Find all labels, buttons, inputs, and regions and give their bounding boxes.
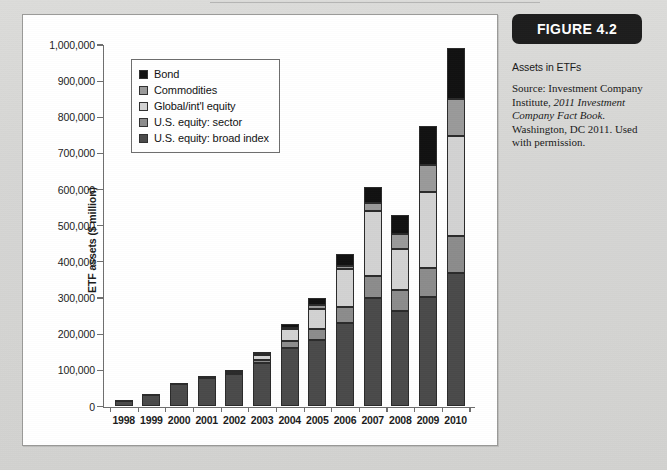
legend-swatch-icon [139, 102, 148, 111]
bar-segment [308, 309, 326, 329]
bar-segment [336, 266, 354, 269]
bar-segment [447, 48, 465, 99]
y-axis-tick-label: 1,000,000 [23, 39, 95, 51]
y-axis-tick-label: 200,000 [23, 328, 95, 340]
bar-2006 [336, 45, 354, 407]
legend-item: Commodities [139, 82, 269, 98]
y-axis-tick [97, 81, 103, 82]
y-axis-tick-label: 700,000 [23, 147, 95, 159]
legend-item-label: U.S. equity: sector [154, 116, 242, 128]
bar-segment [253, 363, 271, 406]
bar-2004 [281, 45, 299, 407]
bar-segment [447, 99, 465, 137]
page-background: ETF assets ($ million) 0100,000200,00030… [0, 0, 667, 470]
x-axis-tick [359, 407, 360, 412]
y-axis-title: ETF assets ($ million) [86, 187, 98, 293]
figure-caption-title: Assets in ETFs [512, 61, 650, 73]
bar-segment [391, 311, 409, 406]
y-axis-tick-label: 400,000 [23, 256, 95, 268]
legend-item: Global/int'l equity [139, 98, 269, 114]
figure-source-note: Source: Investment Company Institute, 20… [512, 82, 650, 150]
x-axis-label-2004: 2004 [278, 414, 301, 426]
bar-segment [336, 269, 354, 307]
bar-segment [281, 328, 299, 330]
bar-segment [391, 290, 409, 311]
y-axis-tick [97, 117, 103, 118]
legend-item-label: Commodities [154, 84, 217, 96]
bar-segment [391, 215, 409, 235]
x-axis-tick [469, 407, 470, 412]
bar-2007 [364, 45, 382, 407]
bar-segment [281, 341, 299, 348]
bar-segment [447, 273, 465, 406]
y-axis-tick [97, 44, 103, 45]
bar-2005 [308, 45, 326, 407]
x-axis-label-1998: 1998 [112, 414, 135, 426]
x-axis-label-2008: 2008 [389, 414, 412, 426]
bar-segment [419, 268, 437, 297]
bar-segment [364, 211, 382, 275]
x-axis-tick [414, 407, 415, 412]
bar-segment [419, 165, 437, 192]
chart-legend: BondCommoditiesGlobal/int'l equityU.S. e… [131, 59, 280, 153]
figure-number-badge: FIGURE 4.2 [512, 14, 642, 44]
legend-swatch-icon [139, 86, 148, 95]
y-axis-line [103, 45, 104, 407]
x-axis-tick [110, 407, 111, 412]
y-axis-tick-label: 0 [23, 401, 95, 413]
bar-segment [336, 254, 354, 267]
x-axis-tick [304, 407, 305, 412]
bar-2009 [419, 45, 437, 407]
x-axis-label-2003: 2003 [251, 414, 274, 426]
x-axis-label-2000: 2000 [168, 414, 191, 426]
bar-segment [198, 378, 216, 406]
bar-segment [253, 354, 271, 356]
bar-segment [225, 373, 243, 375]
y-axis-tick [97, 189, 103, 190]
x-axis-tick [248, 407, 249, 412]
y-axis-tick [97, 297, 103, 298]
y-axis-tick-label: 800,000 [23, 111, 95, 123]
x-axis-label-2005: 2005 [306, 414, 329, 426]
plot-area: ETF assets ($ million) 0100,000200,00030… [23, 15, 499, 447]
bar-segment [391, 249, 409, 289]
legend-item: U.S. equity: broad index [139, 130, 269, 146]
x-axis-tick [138, 407, 139, 412]
bar-segment [308, 298, 326, 305]
source-suffix: Washington, DC 2011. Used with permissio… [512, 123, 638, 149]
x-axis-label-2002: 2002 [223, 414, 246, 426]
bar-segment [419, 192, 437, 267]
bar-segment [253, 352, 271, 354]
bar-segment [281, 329, 299, 341]
y-axis-tick-label: 900,000 [23, 75, 95, 87]
legend-item-label: Global/int'l equity [154, 100, 236, 112]
bar-segment [142, 394, 160, 396]
legend-swatch-icon [139, 118, 148, 127]
bar-segment [142, 395, 160, 407]
y-axis-tick [97, 406, 103, 407]
y-axis-tick-label: 100,000 [23, 364, 95, 376]
bar-segment [391, 234, 409, 249]
y-axis-tick [97, 153, 103, 154]
bar-segment [170, 384, 188, 407]
bar-segment [308, 340, 326, 407]
bar-segment [281, 324, 299, 328]
x-axis-line [103, 407, 475, 408]
bar-segment [198, 376, 216, 378]
bar-segment [336, 323, 354, 407]
bar-2010 [447, 45, 465, 407]
x-axis-label-1999: 1999 [140, 414, 163, 426]
x-axis-tick [221, 407, 222, 412]
bar-segment [281, 348, 299, 407]
x-axis-tick [331, 407, 332, 412]
legend-item: U.S. equity: sector [139, 114, 269, 130]
y-axis-tick [97, 370, 103, 371]
bar-segment [364, 203, 382, 211]
x-axis-tick [165, 407, 166, 412]
x-axis-label-2007: 2007 [361, 414, 384, 426]
bar-segment [364, 276, 382, 298]
bar-segment [225, 374, 243, 407]
x-axis-label-2001: 2001 [195, 414, 218, 426]
chart-panel: ETF assets ($ million) 0100,000200,00030… [22, 14, 498, 446]
legend-row-group: BondCommoditiesGlobal/int'l equityU.S. e… [139, 66, 269, 146]
